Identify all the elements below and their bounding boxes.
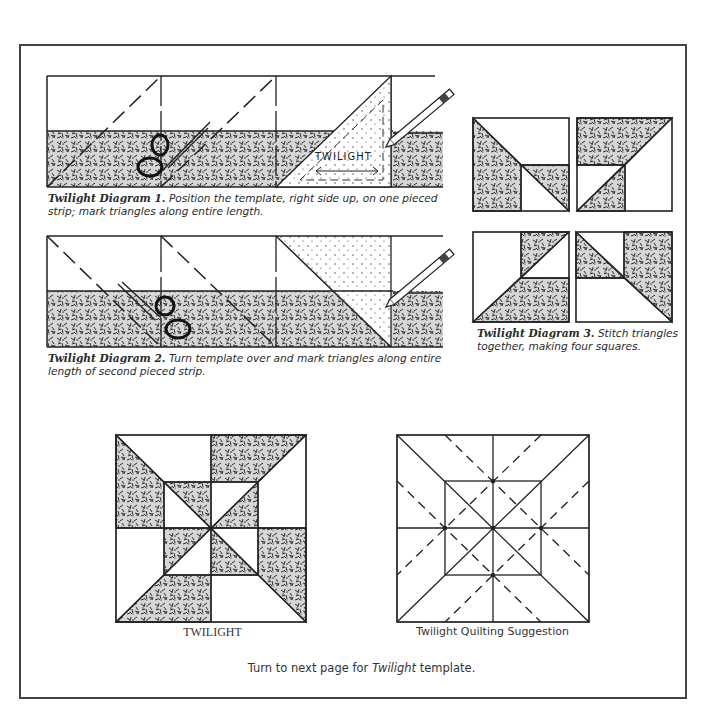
footer-note: Turn to next page for Twilight template. — [0, 661, 723, 675]
diagram-3-caption: Twilight Diagram 3. Stitch triangles tog… — [477, 327, 687, 353]
diagram-1-strip: TWILIGHT — [40, 70, 465, 195]
diagram-1-caption: Twilight Diagram 1. Position the templat… — [48, 192, 458, 218]
diagram-2-caption: Twilight Diagram 2. Turn template over a… — [48, 352, 458, 378]
twilight-block — [110, 430, 315, 628]
quilting-suggestion — [390, 430, 595, 628]
svg-text:TWILIGHT: TWILIGHT — [314, 151, 372, 162]
block-label: TWILIGHT — [110, 625, 315, 640]
diagram-2-strip — [40, 230, 465, 350]
quilting-label: Twilight Quilting Suggestion — [390, 625, 595, 638]
diagram-3-squares — [470, 115, 676, 327]
